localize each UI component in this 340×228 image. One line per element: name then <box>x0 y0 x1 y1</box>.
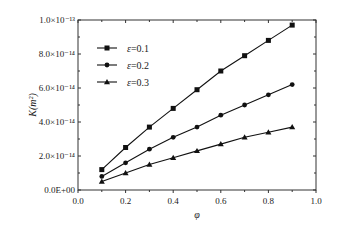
data-point-square-icon <box>99 167 104 172</box>
x-axis-title: φ <box>194 209 200 220</box>
y-tick-label: 1.0×10⁻¹³ <box>39 15 75 25</box>
plot-area: 0.00.20.40.60.81.00.0E+002.0×10⁻¹⁴4.0×10… <box>27 15 322 220</box>
data-point-square-icon <box>242 53 247 58</box>
x-tick-label: 0.4 <box>168 196 180 206</box>
data-point-circle-icon <box>218 113 223 118</box>
x-tick-label: 0.8 <box>263 196 275 206</box>
legend-circle-icon <box>105 63 110 68</box>
y-tick-label: 0.0E+00 <box>44 185 75 195</box>
data-point-square-icon <box>147 125 152 130</box>
x-tick-label: 0.6 <box>215 196 227 206</box>
y-axis-title: K(m²) <box>27 93 39 118</box>
legend-label: ε=0.2 <box>127 60 149 71</box>
legend-label: ε=0.3 <box>127 77 149 88</box>
data-point-square-icon <box>195 87 200 92</box>
data-point-square-icon <box>123 145 128 150</box>
data-point-square-icon <box>171 106 176 111</box>
data-point-square-icon <box>290 23 295 28</box>
legend-square-icon <box>105 46 110 51</box>
data-point-circle-icon <box>195 125 200 130</box>
series-line-2 <box>102 85 292 177</box>
data-point-circle-icon <box>242 103 247 108</box>
data-point-circle-icon <box>266 92 271 97</box>
data-point-circle-icon <box>123 160 128 165</box>
line-chart: 0.00.20.40.60.81.00.0E+002.0×10⁻¹⁴4.0×10… <box>0 0 340 228</box>
data-point-circle-icon <box>171 135 176 140</box>
y-tick-label: 6.0×10⁻¹⁴ <box>39 83 75 93</box>
x-tick-label: 0.2 <box>120 196 131 206</box>
data-point-square-icon <box>218 69 223 74</box>
y-tick-label: 2.0×10⁻¹⁴ <box>39 151 75 161</box>
plot-frame <box>78 20 316 190</box>
data-point-square-icon <box>266 38 271 43</box>
data-point-circle-icon <box>290 82 295 87</box>
y-tick-label: 4.0×10⁻¹⁴ <box>39 117 75 127</box>
x-tick-label: 0.0 <box>72 196 84 206</box>
data-point-triangle-icon <box>289 124 295 129</box>
x-tick-label: 1.0 <box>310 196 322 206</box>
data-point-circle-icon <box>99 174 104 179</box>
legend-label: ε=0.1 <box>127 43 149 54</box>
series-line-3 <box>102 127 292 181</box>
y-tick-label: 8.0×10⁻¹⁴ <box>39 49 75 59</box>
data-point-circle-icon <box>147 147 152 152</box>
